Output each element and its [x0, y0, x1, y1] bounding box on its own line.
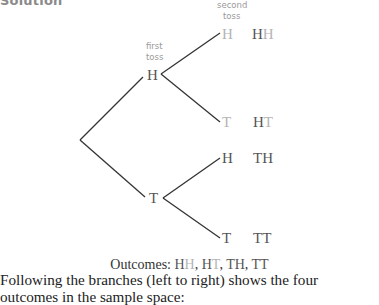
tree-diagram: first toss second toss H T H T H T HH HT… [0, 0, 379, 255]
branch-T-to-H [163, 158, 220, 198]
node-second-T-top: T [222, 114, 231, 130]
branch-root-to-T [80, 140, 145, 197]
node-second-H-bottom: H [222, 150, 233, 166]
branch-H-to-T [161, 74, 220, 122]
caption-outcome-TT: TT [252, 257, 269, 272]
second-toss-label-1: second [217, 0, 247, 10]
node-second-T-bottom: T [222, 230, 231, 246]
branch-H-to-H [161, 33, 220, 74]
first-toss-label-2: toss [146, 52, 164, 62]
outcome-HH: HH [252, 26, 274, 42]
second-toss-label-2: toss [223, 11, 241, 21]
node-first-H: H [147, 67, 158, 83]
outcome-TT: TT [253, 230, 271, 246]
node-first-T: T [149, 190, 158, 206]
first-toss-label-1: first [146, 41, 163, 51]
explanation-paragraph: Following the branches (left to right) s… [0, 271, 379, 305]
node-second-H-top: H [222, 26, 233, 42]
outcome-HT: HT [253, 114, 273, 130]
caption-outcome-TH: TH [226, 257, 245, 272]
branch-root-to-H [80, 77, 143, 140]
branch-T-to-T [163, 198, 220, 238]
outcome-TH: TH [253, 150, 273, 166]
caption-prefix: Outcomes: [110, 257, 174, 272]
